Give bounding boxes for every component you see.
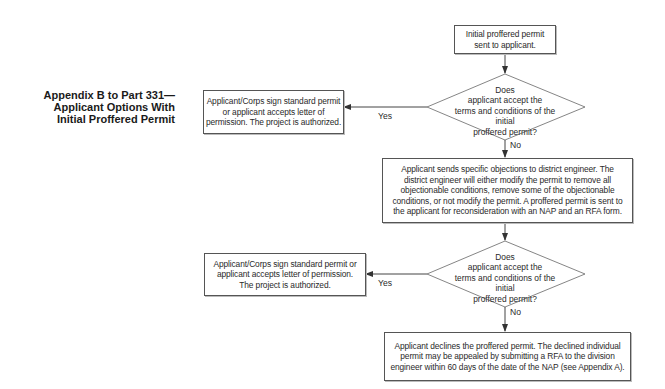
declines-box: Applicant declines the proffered permit.…	[384, 332, 631, 381]
decision1-line: proffered permit?	[445, 127, 565, 137]
start-box: Initial proffered permit sent to applica…	[454, 25, 556, 54]
decision1-text: Does applicant accept the terms and cond…	[445, 85, 565, 137]
start-text: Initial proffered permit sent to applica…	[463, 29, 547, 50]
yes-label-1: Yes	[378, 111, 392, 121]
no-label-1: No	[510, 140, 521, 150]
authorized2-box: Applicant/Corps sign standard permit or …	[204, 253, 366, 296]
decision2-line: applicant accept the	[445, 262, 565, 272]
objections-line: Applicant sends specific objections to d…	[392, 164, 622, 174]
decision2-line: Does	[445, 252, 565, 262]
authorized1-line: permission. The project is authorized.	[206, 117, 341, 127]
authorized2-line: Applicant/Corps sign standard permit or	[213, 259, 356, 269]
objections-line: objectionable conditions, remove some of…	[392, 185, 622, 195]
objections-box: Applicant sends specific objections to d…	[382, 158, 633, 223]
objections-line: district engineer will either modify the…	[392, 175, 622, 185]
no-label-2: No	[510, 307, 521, 317]
objections-line: the applicant for reconsideration with a…	[392, 206, 622, 216]
decision2-line: proffered permit?	[445, 294, 565, 304]
decision1-line: applicant accept the	[445, 95, 565, 105]
decision1-line: Does	[445, 85, 565, 95]
yes-label-2: Yes	[378, 278, 392, 288]
declines-line: engineer within 60 days of the date of t…	[390, 362, 624, 372]
authorized2-line: applicant accepts letter of permission.	[213, 269, 356, 279]
authorized1-line: or applicant accepts letter of	[206, 107, 341, 117]
decision1-line: terms and conditions of the initial	[445, 106, 565, 127]
decision2-text: Does applicant accept the terms and cond…	[445, 252, 565, 304]
objections-line: conditions, or not modify the permit. A …	[392, 196, 622, 206]
authorized1-box: Applicant/Corps sign standard permit or …	[203, 90, 344, 134]
declines-line: permit may be appealed by submitting a R…	[390, 351, 624, 361]
authorized1-line: Applicant/Corps sign standard permit	[206, 96, 341, 106]
declines-line: Applicant declines the proffered permit.…	[390, 341, 624, 351]
decision2-line: terms and conditions of the initial	[445, 273, 565, 294]
authorized2-line: The project is authorized.	[213, 280, 356, 290]
